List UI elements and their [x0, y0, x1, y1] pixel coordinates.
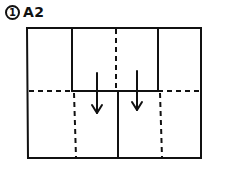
fold-diagram [0, 0, 227, 175]
sheet-outline [27, 28, 201, 158]
fold-line-left-bottom [74, 93, 76, 157]
fold-line-right-bottom [160, 93, 162, 157]
arrow-down-icon [92, 73, 102, 113]
